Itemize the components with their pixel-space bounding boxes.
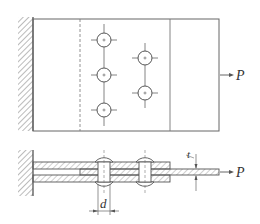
plate-outline <box>33 19 219 131</box>
load-label: P <box>235 165 245 180</box>
rivet <box>132 86 158 100</box>
rivet-section <box>136 150 154 195</box>
fixed-wall-hatch <box>18 17 33 131</box>
load-arrow-icon <box>220 170 234 174</box>
riveted-joint-diagram: P <box>0 0 260 224</box>
load-label: P <box>235 68 245 83</box>
fixed-wall-hatch <box>18 150 33 196</box>
diameter-label: d <box>100 196 107 211</box>
load-arrow-icon <box>220 73 234 77</box>
rivet <box>91 103 117 117</box>
thickness-label: t <box>187 148 191 160</box>
plan-view: P <box>18 17 245 131</box>
rivet <box>132 51 158 65</box>
rivet <box>91 68 117 82</box>
rivet <box>91 33 117 47</box>
section-view: d t P <box>18 148 245 215</box>
